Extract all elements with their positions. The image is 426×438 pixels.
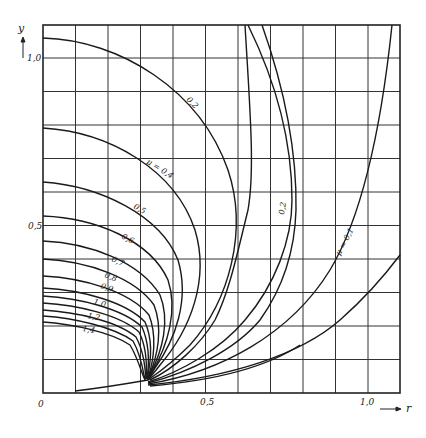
x-tick-1.0: 1,0 <box>360 397 375 407</box>
plot-frame <box>43 25 400 393</box>
curve-0.9 <box>43 276 154 378</box>
label-0.2-inner: 0,2 <box>185 95 200 110</box>
curve-0.15 <box>148 25 296 383</box>
curve-lower-inner <box>75 380 148 391</box>
label-1.0: 1,0 <box>92 297 107 309</box>
label-0.6: 0,6 <box>120 232 135 246</box>
label-1.2: 1,2 <box>87 311 101 322</box>
label-1.4: 1,4 <box>82 324 96 335</box>
grid <box>43 25 400 393</box>
x-tick-0: 0 <box>38 399 44 409</box>
streamline-chart: 0,2 μ = 0,4 0,5 0,6 0,7 0,8 0,9 1,0 1,2 … <box>0 0 426 438</box>
label-0.2-outer: 0,2 <box>277 201 288 215</box>
curve-1.1 <box>43 296 148 379</box>
axis-arrows <box>21 37 401 411</box>
x-axis-label: r <box>406 402 412 415</box>
curve-0.4 <box>43 128 200 380</box>
y-axis-label: y <box>17 22 25 35</box>
curves <box>43 25 400 391</box>
curve-labels: 0,2 μ = 0,4 0,5 0,6 0,7 0,8 0,9 1,0 1,2 … <box>82 95 356 335</box>
label-0.7: 0,7 <box>110 255 126 269</box>
y-tick-0.5: 0,5 <box>28 221 43 231</box>
y-tick-1.0: 1,0 <box>27 53 42 63</box>
label-0.1: μ = 0,1 <box>334 226 356 256</box>
label-0.5: 0,5 <box>132 202 148 216</box>
x-tick-0.5: 0,5 <box>200 397 215 407</box>
